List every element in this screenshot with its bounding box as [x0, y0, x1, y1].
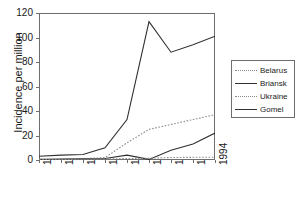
x-tick-mark [105, 160, 106, 163]
legend-item-briansk[interactable]: Briansk [235, 77, 291, 90]
y-tick-label: 120 [7, 8, 33, 18]
legend-item-gomel[interactable]: Gomel [235, 103, 291, 116]
x-tick-mark [171, 160, 172, 163]
legend-item-ukraine[interactable]: Ukraine [235, 90, 291, 103]
x-tick-mark [61, 160, 62, 163]
series-line-belarus [39, 115, 215, 160]
y-tick-label: 80 [7, 57, 33, 67]
series-line-gomel [39, 22, 215, 157]
legend-label: Ukraine [260, 92, 288, 101]
line-chart: Incidence per million 020406080100120 19… [0, 0, 299, 198]
y-tick-label: 40 [7, 106, 33, 116]
x-tick-mark [193, 160, 194, 163]
x-tick-mark [127, 160, 128, 163]
plot-series-layer [39, 13, 215, 160]
y-tick-label: 0 [7, 155, 33, 165]
legend-label: Briansk [260, 79, 287, 88]
y-tick-label: 20 [7, 131, 33, 141]
series-line-ukraine [39, 157, 215, 159]
x-tick-mark [39, 160, 40, 163]
y-tick-label: 60 [7, 82, 33, 92]
legend-swatch-dotted-icon [235, 92, 257, 101]
legend-swatch-solid-icon [235, 79, 257, 88]
x-tick-label: 1994 [219, 143, 229, 165]
x-tick-mark [83, 160, 84, 163]
legend-item-belarus[interactable]: Belarus [235, 64, 291, 77]
legend-label: Gomel [260, 105, 284, 114]
legend-label: Belarus [260, 66, 287, 75]
legend-swatch-dotted-icon [235, 66, 257, 75]
x-tick-mark [149, 160, 150, 163]
chart-legend: BelarusBrianskUkraineGomel [231, 60, 295, 118]
legend-swatch-solid-icon [235, 105, 257, 114]
x-tick-mark [215, 160, 216, 163]
y-tick-label: 100 [7, 33, 33, 43]
